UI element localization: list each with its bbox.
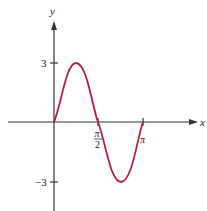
y-axis-label: y [49,5,55,17]
x-tick-label-pi: π [140,134,146,145]
x-tick-label-pi-half-num: π [95,128,101,139]
y-axis-arrow-icon [51,21,57,30]
y-tick-label-neg3: −3 [35,176,47,188]
x-axis-label: x [199,116,205,128]
chart: x y 3 −3 π 2 π [0,0,207,211]
y-tick-label-3: 3 [41,57,47,69]
x-tick-label-pi-half-den: 2 [95,139,100,150]
x-axis-arrow-icon [189,119,198,125]
